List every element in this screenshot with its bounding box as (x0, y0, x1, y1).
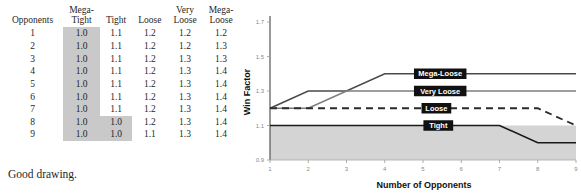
table-cell: 1.4 (203, 116, 240, 129)
x-axis-tick-label: 2 (307, 166, 311, 172)
table-cell: 1.3 (167, 53, 202, 66)
x-axis-tick-label: 6 (460, 166, 464, 172)
table-row: 91.01.01.11.31.4 (6, 128, 239, 141)
table-cell: 1.2 (132, 40, 167, 53)
table-cell: 1.1 (100, 78, 132, 91)
y-axis-ticks: 0.91.11.31.51.7 (256, 19, 270, 163)
column-header-mega-loose: Mega- Loose (203, 6, 240, 27)
table-cell: 1.1 (100, 27, 132, 40)
table-cell: 1.4 (203, 78, 240, 91)
table-cell: 1.1 (100, 65, 132, 78)
table-cell: 1.0 (100, 116, 132, 129)
table-cell: 1.2 (167, 40, 202, 53)
figure-caption: Good drawing. (8, 168, 77, 180)
table-cell: 1.0 (63, 91, 100, 104)
table-row: 31.01.11.21.31.3 (6, 53, 239, 66)
table-cell: 1.0 (63, 53, 100, 66)
series-label-mega-loose: Mega-Loose (414, 69, 467, 80)
table-cell: 1.0 (63, 27, 100, 40)
table-cell: 1.1 (100, 40, 132, 53)
table-cell: 1.2 (203, 27, 240, 40)
table-row: 81.01.01.21.31.4 (6, 116, 239, 129)
table-cell: 1.4 (203, 103, 240, 116)
y-axis-tick-label: 0.9 (256, 157, 265, 163)
table-cell: 1.2 (132, 65, 167, 78)
table-row: 21.01.11.21.21.3 (6, 40, 239, 53)
table-cell: 1.2 (132, 103, 167, 116)
x-axis-tick-label: 3 (345, 166, 349, 172)
table-cell: 1.4 (203, 65, 240, 78)
y-axis-tick-label: 1.5 (256, 54, 265, 60)
table-cell: 1.0 (100, 128, 132, 141)
series-label-tight: Tight (423, 120, 453, 131)
table-cell: 1.0 (63, 103, 100, 116)
series-label-text: Mega-Loose (418, 69, 462, 78)
x-axis-tick-label: 8 (536, 166, 540, 172)
table-row: 61.01.11.21.31.4 (6, 91, 239, 104)
table-row: 51.01.11.21.31.4 (6, 78, 239, 91)
cell-opponents: 7 (6, 103, 63, 116)
column-header-very-loose: Very Loose (167, 6, 202, 27)
series-label-loose: Loose (422, 103, 452, 114)
table-cell: 1.3 (167, 128, 202, 141)
table-header: Opponents Mega- Tight Tight Loose Very L… (6, 6, 239, 27)
cell-opponents: 6 (6, 91, 63, 104)
table-cell: 1.1 (100, 91, 132, 104)
table-body: 11.01.11.21.21.221.01.11.21.21.331.01.11… (6, 27, 239, 141)
figure-root: Opponents Mega- Tight Tight Loose Very L… (0, 0, 581, 193)
x-axis-tick-label: 1 (268, 166, 272, 172)
y-axis-tick-label: 1.1 (256, 123, 265, 129)
table-cell: 1.3 (167, 91, 202, 104)
x-axis-title: Number of Opponents (377, 180, 472, 190)
table-cell: 1.1 (100, 103, 132, 116)
series-label-very-loose: Very Loose (414, 86, 467, 97)
win-factor-chart-panel: 0.91.11.31.51.7 123456789 Mega-LooseVery… (238, 0, 581, 193)
table-row: 11.01.11.21.21.2 (6, 27, 239, 40)
table-cell: 1.0 (63, 128, 100, 141)
column-header-mega-tight: Mega- Tight (63, 6, 100, 27)
table-cell: 1.0 (63, 78, 100, 91)
series-labels-group: Mega-LooseVery LooseLooseTight (414, 69, 467, 131)
table-cell: 1.1 (132, 128, 167, 141)
table-cell: 1.3 (167, 116, 202, 129)
x-axis-ticks: 123456789 (268, 160, 578, 172)
y-axis-tick-label: 1.7 (256, 19, 265, 25)
table-cell: 1.2 (167, 27, 202, 40)
table-cell: 1.1 (100, 53, 132, 66)
table-cell: 1.0 (63, 116, 100, 129)
cell-opponents: 3 (6, 53, 63, 66)
win-factor-table-panel: Opponents Mega- Tight Tight Loose Very L… (0, 0, 238, 193)
series-label-text: Very Loose (420, 87, 460, 96)
table-cell: 1.4 (203, 128, 240, 141)
table-cell: 1.3 (167, 65, 202, 78)
table-cell: 1.0 (63, 65, 100, 78)
table-cell: 1.0 (63, 40, 100, 53)
column-header-opponents: Opponents (6, 6, 63, 27)
x-axis-tick-label: 5 (421, 166, 425, 172)
table-row: 41.01.11.21.31.4 (6, 65, 239, 78)
table-row: 71.01.11.21.31.4 (6, 103, 239, 116)
table-cell: 1.3 (203, 53, 240, 66)
table-cell: 1.4 (203, 91, 240, 104)
table-cell: 1.2 (132, 27, 167, 40)
x-axis-tick-label: 9 (574, 166, 578, 172)
table-cell: 1.2 (132, 116, 167, 129)
x-axis-tick-label: 7 (498, 166, 502, 172)
table-cell: 1.2 (132, 53, 167, 66)
x-axis-tick-label: 4 (383, 166, 387, 172)
win-factor-line-chart: 0.91.11.31.51.7 123456789 Mega-LooseVery… (238, 0, 581, 193)
cell-opponents: 2 (6, 40, 63, 53)
cell-opponents: 4 (6, 65, 63, 78)
table-header-row: Opponents Mega- Tight Tight Loose Very L… (6, 6, 239, 27)
column-header-tight: Tight (100, 6, 132, 27)
cell-opponents: 5 (6, 78, 63, 91)
cell-opponents: 8 (6, 116, 63, 129)
y-axis-tick-label: 1.3 (256, 88, 265, 94)
series-label-text: Loose (425, 104, 447, 113)
cell-opponents: 1 (6, 27, 63, 40)
series-label-text: Tight (429, 121, 448, 130)
table-cell: 1.3 (167, 103, 202, 116)
shaded-band-region (270, 126, 576, 161)
column-header-loose: Loose (132, 6, 167, 27)
cell-opponents: 9 (6, 128, 63, 141)
